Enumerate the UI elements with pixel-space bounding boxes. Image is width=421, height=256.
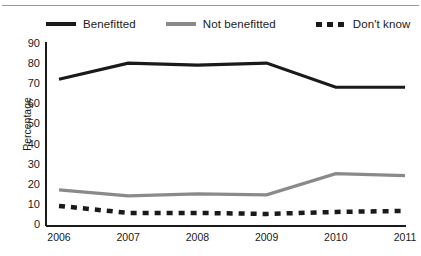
y-tick-label: 0	[14, 218, 40, 230]
series-line-not-benefitted	[59, 174, 405, 196]
figure-container: Figure: Perceived benefit from the progr…	[0, 0, 421, 256]
series-line-benefitted	[59, 63, 405, 87]
y-tick-label: 90	[14, 37, 40, 49]
y-tick-label: 20	[14, 178, 40, 190]
y-tick-label: 30	[14, 158, 40, 170]
x-tick-label: 2008	[167, 231, 227, 243]
series-line-don-t-know	[59, 206, 405, 214]
x-tick-label: 2011	[375, 231, 421, 243]
y-tick-label: 60	[14, 97, 40, 109]
x-tick-label: 2010	[306, 231, 366, 243]
x-tick-label: 2009	[237, 231, 297, 243]
data-series-layer	[59, 63, 405, 214]
x-tick-label: 2006	[29, 231, 89, 243]
y-tick-label: 80	[14, 57, 40, 69]
plot-area	[0, 0, 421, 256]
y-tick-label: 70	[14, 77, 40, 89]
y-tick-label: 10	[14, 198, 40, 210]
y-tick-label: 50	[14, 117, 40, 129]
y-tick-label: 40	[14, 138, 40, 150]
x-tick-label: 2007	[98, 231, 158, 243]
